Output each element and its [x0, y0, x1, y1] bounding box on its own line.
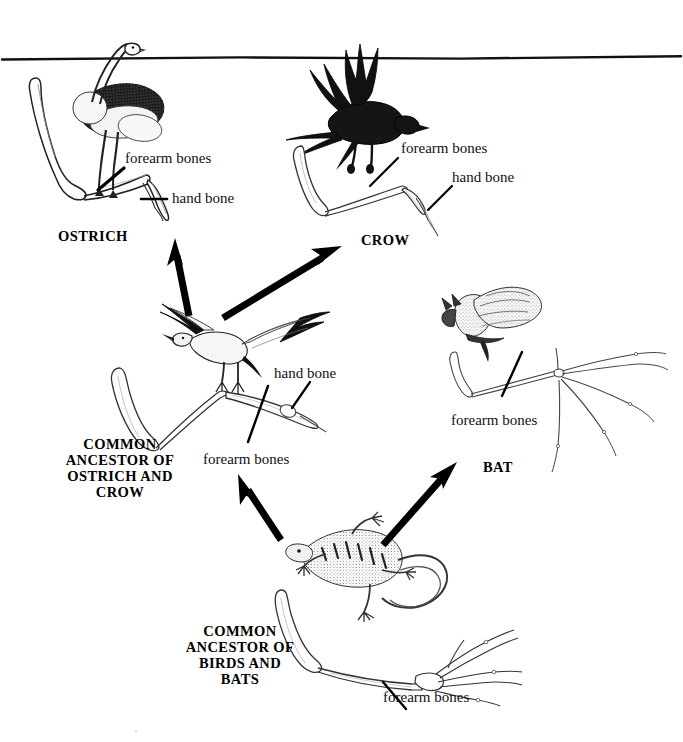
- label-layer: forearm bones hand bone OSTRICH forearm …: [0, 0, 683, 742]
- taxon-label-common-ancestor-birds-bats-line3: BIRDS AND: [172, 655, 308, 672]
- taxon-label-crow: CROW: [361, 232, 409, 249]
- crow-hand-bone-label: hand bone: [452, 170, 514, 186]
- taxon-label-bat: BAT: [483, 459, 513, 476]
- taxon-label-common-ancestor-birds-bats-line1: COMMON: [172, 623, 308, 640]
- taxon-label-common-ancestor-birds-bats-line2: ANCESTOR OF: [172, 639, 308, 656]
- taxon-label-ostrich: OSTRICH: [58, 228, 128, 245]
- taxon-label-common-ancestor-ostrich-crow-line3: OSTRICH AND: [52, 468, 188, 485]
- ancestor-birds-forearm-bones-label: forearm bones: [203, 452, 289, 468]
- taxon-label-common-ancestor-ostrich-crow-line1: COMMON: [52, 436, 188, 453]
- crow-forearm-bones-label: forearm bones: [401, 141, 487, 157]
- root-forearm-bones-label: forearm bones: [383, 690, 469, 706]
- ostrich-forearm-bones-label: forearm bones: [125, 151, 211, 167]
- taxon-label-common-ancestor-birds-bats-line4: BATS: [172, 671, 308, 688]
- ostrich-hand-bone-label: hand bone: [172, 191, 234, 207]
- taxon-label-common-ancestor-ostrich-crow-line2: ANCESTOR OF: [52, 452, 188, 469]
- diagram-canvas: forearm bones hand bone OSTRICH forearm …: [0, 0, 683, 742]
- bat-forearm-bones-label: forearm bones: [451, 413, 537, 429]
- taxon-label-common-ancestor-ostrich-crow-line4: CROW: [52, 484, 188, 501]
- ancestor-birds-hand-bone-label: hand bone: [274, 366, 336, 382]
